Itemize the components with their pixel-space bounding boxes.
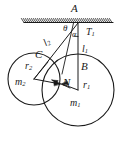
radius-r2-leader	[34, 62, 48, 79]
label-angle-alpha: α	[72, 31, 76, 39]
tension-t1-subscript: 1	[92, 30, 95, 37]
diagram-canvas	[0, 0, 124, 142]
label-point-c: C	[35, 49, 42, 60]
label-point-n: N	[63, 77, 70, 88]
label-point-a: A	[71, 3, 78, 14]
mass-m2-subscript: 2	[22, 80, 25, 87]
radius-r2-subscript: 2	[29, 64, 32, 71]
ceiling-hatching	[21, 19, 112, 23]
label-mass-m2: m2	[15, 77, 25, 88]
physics-diagram: A θ α T1 l2 l1 C B r2 r1 N m2 m1	[0, 0, 124, 142]
label-radius-r1: r1	[83, 80, 90, 91]
label-radius-r2: r2	[25, 61, 32, 72]
string-l1-subscript: 1	[85, 47, 88, 54]
label-tension-t1: T1	[86, 27, 95, 38]
label-angle-theta: θ	[63, 24, 67, 33]
label-mass-m1: m1	[70, 98, 80, 109]
label-point-b: B	[81, 61, 88, 72]
mass-m1-subscript: 1	[77, 101, 80, 108]
label-string-l1: l1	[82, 44, 88, 55]
radius-r1-subscript: 1	[87, 83, 90, 90]
